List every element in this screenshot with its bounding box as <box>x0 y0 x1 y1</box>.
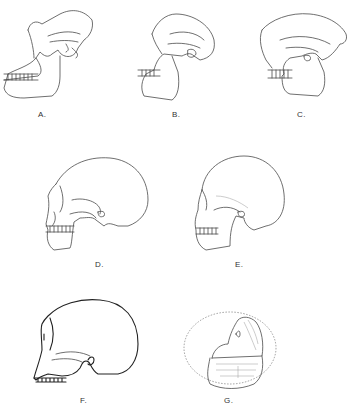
panel-label-a: A. <box>38 110 47 119</box>
panel-label-e: E. <box>235 260 244 269</box>
panel-label-b: B. <box>172 110 181 119</box>
panel-label-f: F. <box>80 396 87 405</box>
panel-label-g: G. <box>224 396 233 405</box>
skull-comparison-figure: A. B. C. D. E. F. G. <box>0 0 356 411</box>
panel-label-d: D. <box>95 260 104 269</box>
skull-fragment-icon <box>0 0 356 411</box>
panel-label-c: C. <box>297 110 306 119</box>
